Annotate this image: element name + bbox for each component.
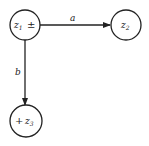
edge-a: a <box>40 13 110 25</box>
node-z1-sub: 1 <box>19 24 23 31</box>
node-z3-sub: 3 <box>30 120 34 127</box>
node-z1-sign: ± <box>27 19 35 30</box>
edge-b-label: b <box>15 67 21 77</box>
node-z3-sign: + <box>15 115 23 126</box>
node-z3: + z3 <box>10 105 42 137</box>
node-z2-sub: 2 <box>125 24 130 31</box>
node-z1: z1 ± <box>10 10 40 40</box>
signal-flow-diagram: a b z1 ± z2 + z3 <box>0 0 149 146</box>
node-z2: z2 <box>111 10 141 40</box>
edge-b: b <box>15 40 25 105</box>
edge-a-label: a <box>70 13 75 23</box>
